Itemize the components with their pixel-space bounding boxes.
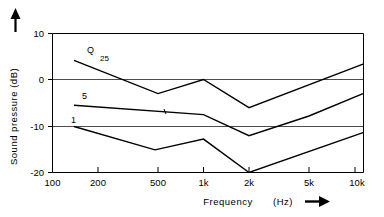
y-ticklabel-2: -10 [30, 121, 44, 132]
annotation-q1: 1 [71, 115, 76, 125]
x-ticklabel-5: 5k [304, 177, 314, 188]
y-ticklabel-0: 10 [33, 28, 44, 39]
x-ticklabel-2: 500 [150, 177, 166, 188]
y-ticklabel-1: 0 [39, 74, 44, 85]
x-ticklabel-4: 2k [244, 177, 254, 188]
x-axis-title: Frequency [203, 196, 252, 207]
x-ticklabel-6: 10k [349, 177, 365, 188]
sound-pressure-frequency-chart: 10 0 -10 -20 100 200 500 1k 2k 5k 10k [0, 0, 384, 217]
annotation-q-symbol: Q [87, 45, 94, 55]
x-axis-unit: (Hz) [273, 196, 293, 207]
annotation-q25: 25 [100, 54, 109, 63]
chart-container: 10 0 -10 -20 100 200 500 1k 2k 5k 10k [0, 0, 384, 217]
x-ticklabel-0: 100 [45, 177, 61, 188]
x-ticklabel-3: 1k [198, 177, 208, 188]
x-ticklabel-1: 200 [90, 177, 106, 188]
y-ticklabel-3: -20 [30, 167, 44, 178]
y-axis-title: Sound pressure (dB) [8, 68, 19, 165]
annotation-q5: 5 [82, 91, 87, 101]
